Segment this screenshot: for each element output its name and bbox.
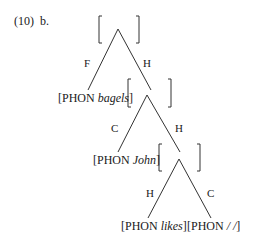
feature-value: bagels: [98, 91, 129, 105]
edge-label-h: H: [143, 57, 151, 69]
avm-bracket-left: [99, 16, 102, 43]
edge-label-c: C: [207, 187, 214, 199]
feature-value: John: [133, 153, 156, 167]
leaf-empty-phon: [PHON / /]: [187, 219, 240, 234]
edge-label-h: H: [175, 122, 183, 134]
feature-value: likes: [161, 219, 183, 233]
feature-value: / /: [227, 219, 237, 233]
avm-bracket-right: [136, 16, 139, 43]
feature-name: PHON: [191, 219, 224, 233]
edge-label-c: C: [111, 122, 118, 134]
leaf-bagels: [PHON bagels]: [58, 91, 133, 106]
edge-label-h: H: [146, 187, 154, 199]
feature-name: PHON: [125, 219, 158, 233]
leaf-likes: [PHON likes]: [121, 219, 187, 234]
leaf-john: [PHON John]: [93, 153, 160, 168]
edge-label-f: F: [84, 57, 90, 69]
feature-name: PHON: [97, 153, 130, 167]
feature-name: PHON: [62, 91, 95, 105]
tree-lines: [0, 0, 257, 243]
